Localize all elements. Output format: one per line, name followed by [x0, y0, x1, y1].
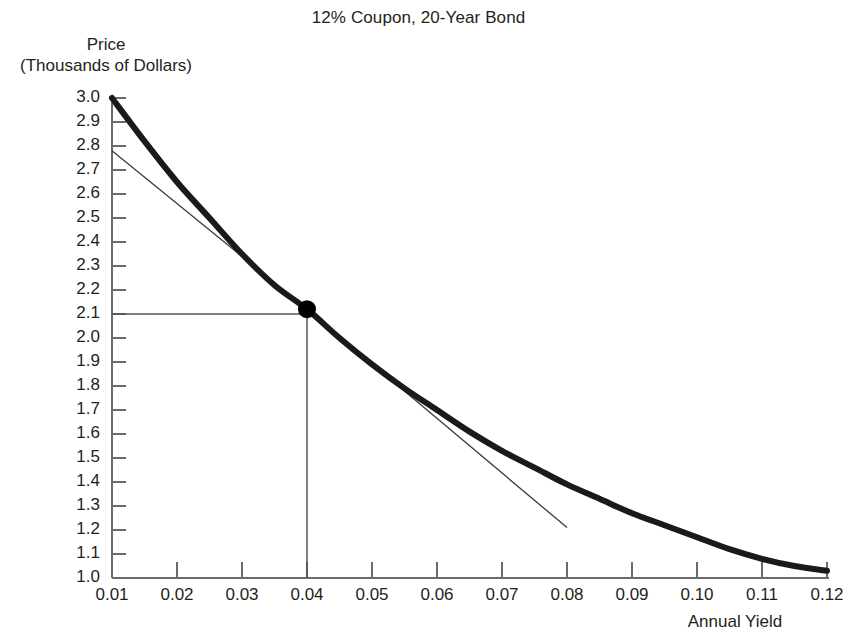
x-tick-label: 0.07 [467, 585, 537, 605]
reference-lines-group [112, 314, 307, 578]
y-tick-label: 1.8 [48, 375, 100, 395]
y-tick-label: 1.0 [48, 567, 100, 587]
y-tick-label: 2.8 [48, 135, 100, 155]
y-tick-label: 3.0 [48, 87, 100, 107]
y-tick-label: 2.6 [48, 183, 100, 203]
x-tick-label: 0.02 [142, 585, 212, 605]
x-tick-label: 0.08 [532, 585, 602, 605]
y-tick-label: 1.3 [48, 495, 100, 515]
x-tick-label: 0.01 [77, 585, 147, 605]
x-tick-label: 0.03 [207, 585, 277, 605]
x-tick-label: 0.12 [792, 585, 848, 605]
y-tick-label: 1.4 [48, 471, 100, 491]
tangency-point [298, 300, 316, 318]
y-tick-label: 2.1 [48, 303, 100, 323]
data-point-markers [298, 300, 316, 318]
y-tick-label: 1.6 [48, 423, 100, 443]
y-tick-label: 1.9 [48, 351, 100, 371]
y-tick-label: 2.7 [48, 159, 100, 179]
x-tick-label: 0.04 [272, 585, 342, 605]
x-tick-label: 0.11 [727, 585, 797, 605]
x-tick-label: 0.05 [337, 585, 407, 605]
y-tick-label: 2.0 [48, 327, 100, 347]
x-tick-label: 0.10 [662, 585, 732, 605]
axis-ticks-group [112, 98, 827, 578]
y-tick-label: 1.7 [48, 399, 100, 419]
y-tick-label: 2.4 [48, 231, 100, 251]
price-yield-curve [112, 98, 827, 571]
y-tick-label: 2.9 [48, 111, 100, 131]
x-tick-label: 0.09 [597, 585, 667, 605]
y-tick-label: 2.3 [48, 255, 100, 275]
y-tick-label: 1.5 [48, 447, 100, 467]
x-tick-label: 0.06 [402, 585, 472, 605]
y-tick-label: 1.1 [48, 543, 100, 563]
y-tick-label: 2.5 [48, 207, 100, 227]
y-tick-label: 1.2 [48, 519, 100, 539]
y-tick-label: 2.2 [48, 279, 100, 299]
